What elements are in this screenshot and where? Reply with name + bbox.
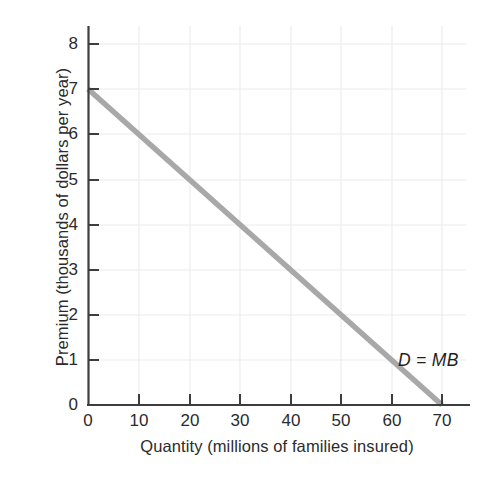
y-tick-label-8: 8	[48, 34, 78, 54]
x-tick-label-10: 10	[119, 411, 159, 431]
x-tick-label-30: 30	[220, 411, 260, 431]
x-tick-label-50: 50	[321, 411, 361, 431]
y-tick-label-6: 6	[48, 124, 78, 144]
x-tick-label-40: 40	[271, 411, 311, 431]
demand-curve-chart: 8 7 6 5 4 3 2 1 0 0 10 20 30 40 50 60 70…	[0, 0, 488, 479]
x-tick-label-0: 0	[68, 411, 108, 431]
y-tick-label-3: 3	[48, 260, 78, 280]
x-tick-label-20: 20	[170, 411, 210, 431]
x-tick-label-60: 60	[372, 411, 412, 431]
x-axis-title-text: Quantity (millions of families insured)	[140, 437, 414, 455]
y-tick-label-5: 5	[48, 170, 78, 190]
horizontal-gridlines	[88, 44, 466, 360]
vertical-gridlines	[139, 26, 442, 405]
x-axis-ticks	[139, 394, 442, 404]
y-tick-label-2: 2	[48, 305, 78, 325]
demand-curve-line	[88, 89, 442, 405]
y-tick-label-1: 1	[48, 350, 78, 370]
y-tick-label-7: 7	[48, 79, 78, 99]
y-tick-label-4: 4	[48, 215, 78, 235]
demand-curve-label: D = MB	[398, 350, 459, 371]
x-axis-title: Quantity (millions of families insured)	[88, 437, 466, 456]
x-tick-label-70: 70	[422, 411, 462, 431]
